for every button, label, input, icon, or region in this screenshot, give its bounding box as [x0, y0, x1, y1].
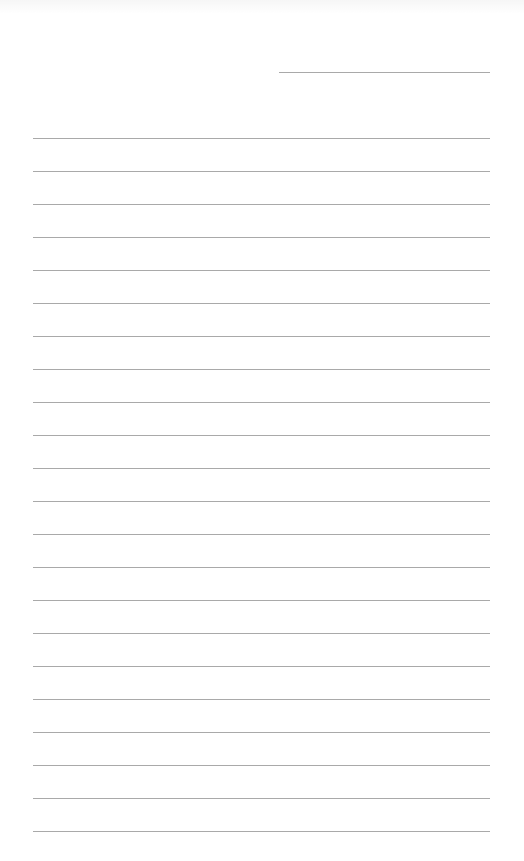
ruled-line — [33, 237, 490, 238]
ruled-line — [33, 534, 490, 535]
ruled-line — [33, 798, 490, 799]
faint-bleed-through-text — [0, 0, 524, 14]
ruled-line — [33, 699, 490, 700]
ruled-line — [33, 171, 490, 172]
ruled-line — [33, 138, 490, 139]
ruled-line — [33, 567, 490, 568]
ruled-line — [33, 633, 490, 634]
ruled-line — [33, 831, 490, 832]
ruled-line — [33, 435, 490, 436]
ruled-line — [33, 732, 490, 733]
ruled-line — [33, 402, 490, 403]
ruled-line — [33, 600, 490, 601]
ruled-line — [33, 336, 490, 337]
ruled-line — [33, 270, 490, 271]
ruled-line — [33, 765, 490, 766]
ruled-line — [33, 468, 490, 469]
ruled-line — [33, 666, 490, 667]
lined-paper-page — [0, 0, 524, 861]
ruled-line — [33, 303, 490, 304]
ruled-line — [33, 501, 490, 502]
ruled-line — [33, 204, 490, 205]
header-name-line — [279, 72, 490, 73]
ruled-line — [33, 369, 490, 370]
